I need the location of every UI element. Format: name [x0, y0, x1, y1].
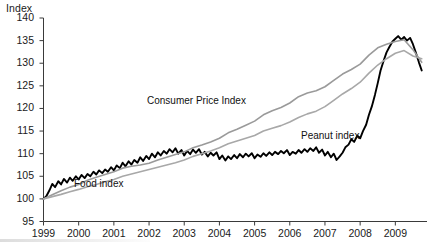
series-line-consumer-price-index — [44, 40, 422, 199]
y-tick-label: 125 — [8, 79, 34, 91]
y-tick-label: 120 — [8, 101, 34, 113]
y-tick-label: 105 — [8, 169, 34, 181]
y-tick-label: 95 — [8, 215, 34, 227]
y-tick-label: 115 — [8, 124, 34, 136]
x-tick-label: 2009 — [374, 227, 416, 239]
axis-lines — [44, 18, 428, 222]
x-axis-ticks — [44, 222, 396, 226]
y-tick-label: 110 — [8, 147, 34, 159]
y-tick-label: 100 — [8, 192, 34, 204]
y-tick-label: 135 — [8, 34, 34, 46]
y-axis-ticks — [40, 18, 44, 222]
chart-container: Index 95100105110115120125130135140 1999… — [0, 0, 431, 242]
series-label-consumer-price-index: Consumer Price Index — [147, 95, 246, 106]
series-line-peanut-index — [44, 36, 422, 199]
series-label-peanut-index: Peanut index — [301, 130, 359, 141]
series-lines — [44, 36, 422, 199]
chart-plot-area — [0, 0, 431, 242]
y-tick-label: 130 — [8, 56, 34, 68]
series-label-food-index: Food index — [74, 178, 123, 189]
y-tick-label: 140 — [8, 11, 34, 23]
